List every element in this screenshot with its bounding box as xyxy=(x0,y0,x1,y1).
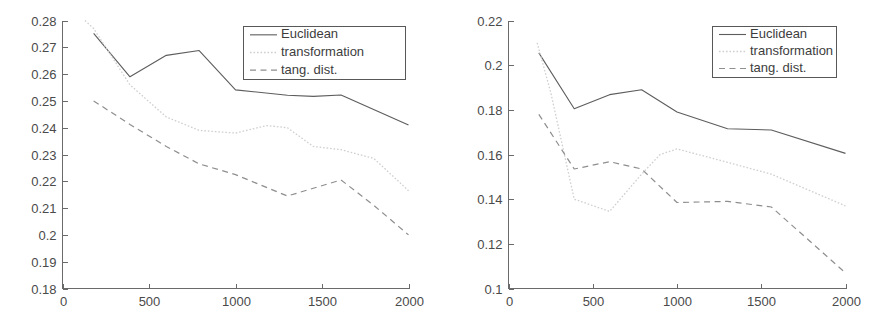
y-tick-label: 0.12 xyxy=(477,237,502,252)
legend-left: Euclideantransformationtang. dist. xyxy=(244,26,406,79)
x-tick-label: 0 xyxy=(506,294,513,309)
series-line-tangdist xyxy=(539,114,846,273)
legend-label-tangdist: tang. dist. xyxy=(750,60,806,75)
line-chart-right: 0.10.120.140.160.180.20.22 0500100015002… xyxy=(439,0,877,329)
x-axis-ticks-left: 0500100015002000 xyxy=(60,284,424,309)
legend-label-tangdist: tang. dist. xyxy=(281,62,337,77)
y-tick-label: 0.27 xyxy=(31,40,56,55)
y-tick-label: 0.28 xyxy=(31,14,56,29)
series-line-tangdist xyxy=(94,101,409,235)
x-tick-label: 1000 xyxy=(663,294,692,309)
x-tick-label: 1000 xyxy=(222,294,251,309)
x-tick-label: 500 xyxy=(583,294,605,309)
chart-panel-right: 0.10.120.140.160.180.20.22 0500100015002… xyxy=(439,0,877,329)
legend-label-transformation: transformation xyxy=(750,43,833,58)
y-tick-label: 0.14 xyxy=(477,192,502,207)
y-tick-label: 0.1 xyxy=(484,282,502,297)
x-axis-ticks-right: 0500100015002000 xyxy=(506,284,861,309)
y-tick-label: 0.2 xyxy=(484,58,502,73)
x-tick-label: 1500 xyxy=(747,294,776,309)
x-tick-label: 2000 xyxy=(832,294,861,309)
chart-panel-left: 0.180.190.20.210.220.230.240.250.260.270… xyxy=(0,0,438,329)
y-tick-label: 0.16 xyxy=(477,148,502,163)
legend-label-euclidean: Euclidean xyxy=(281,26,338,41)
y-tick-label: 0.26 xyxy=(31,67,56,82)
y-tick-label: 0.23 xyxy=(31,148,56,163)
y-tick-label: 0.22 xyxy=(31,174,56,189)
y-tick-label: 0.25 xyxy=(31,94,56,109)
legend-label-transformation: transformation xyxy=(281,44,364,59)
x-tick-label: 0 xyxy=(60,294,67,309)
legend-right: Euclideantransformationtang. dist. xyxy=(713,26,837,78)
x-tick-label: 2000 xyxy=(395,294,424,309)
y-tick-label: 0.2 xyxy=(38,228,56,243)
x-tick-label: 1500 xyxy=(308,294,337,309)
figure-root: 0.180.190.20.210.220.230.240.250.260.270… xyxy=(0,0,877,329)
y-tick-label: 0.21 xyxy=(31,201,56,216)
line-chart-left: 0.180.190.20.210.220.230.240.250.260.270… xyxy=(0,0,438,329)
y-tick-label: 0.19 xyxy=(31,255,56,270)
y-tick-label: 0.18 xyxy=(477,103,502,118)
x-tick-label: 500 xyxy=(139,294,161,309)
y-tick-label: 0.24 xyxy=(31,121,56,136)
y-tick-label: 0.22 xyxy=(477,14,502,29)
y-tick-label: 0.18 xyxy=(31,282,56,297)
legend-label-euclidean: Euclidean xyxy=(750,26,807,41)
